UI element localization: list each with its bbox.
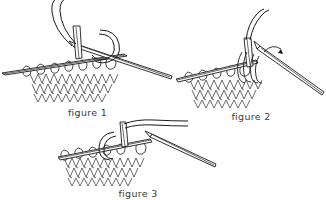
working-yarn-strand-3: [124, 120, 188, 128]
knitting-needles-stitches-illustration-3: [58, 118, 218, 190]
knitting-needles-stitches-illustration-1: [0, 0, 175, 112]
figure-2-block: figure 2: [176, 8, 326, 130]
knitted-fabric-2: [190, 80, 262, 108]
knitting-needles-stitches-illustration-2: [176, 8, 326, 113]
figure-3-block: figure 3: [58, 118, 218, 200]
knitted-fabric-1: [30, 74, 118, 102]
knitted-fabric-3: [64, 158, 144, 186]
right-knitting-needle-3: [145, 131, 216, 167]
needle-tip-3: [120, 122, 128, 147]
diagram-page: figure 1: [0, 0, 326, 200]
figure-3-caption: figure 3: [58, 188, 218, 199]
working-yarn-strand-2: [246, 9, 269, 40]
right-knitting-needle-2: [254, 41, 324, 95]
figure-1-caption: figure 1: [0, 107, 175, 118]
figure-1-block: figure 1: [0, 0, 175, 125]
working-yarn-strand-1: [52, 0, 76, 46]
